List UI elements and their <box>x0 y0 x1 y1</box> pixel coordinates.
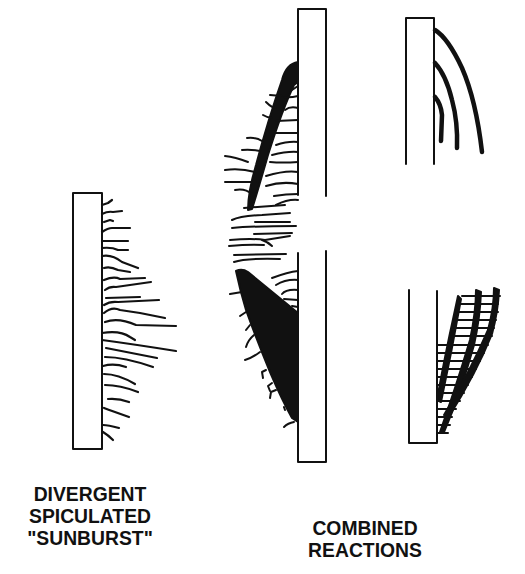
combined-bone-middle <box>298 9 326 462</box>
caption-line: "SUNBURST" <box>16 527 163 549</box>
caption-line: SPICULATED <box>16 505 163 527</box>
lower-triangle <box>236 270 298 422</box>
caption-line: REACTIONS <box>296 539 434 561</box>
sunburst-spicules <box>102 200 176 440</box>
caption-line: COMBINED <box>296 517 434 539</box>
combined-bone-right <box>406 18 437 443</box>
sunburst-bone <box>73 193 102 449</box>
caption-divergent-spiculated-sunburst: DIVERGENT SPICULATED "SUNBURST" <box>16 483 163 549</box>
upper-lamellae <box>435 30 482 152</box>
upper-shell <box>248 62 298 210</box>
caption-combined-reactions: COMBINED REACTIONS <box>296 517 434 561</box>
caption-line: DIVERGENT <box>16 483 163 505</box>
